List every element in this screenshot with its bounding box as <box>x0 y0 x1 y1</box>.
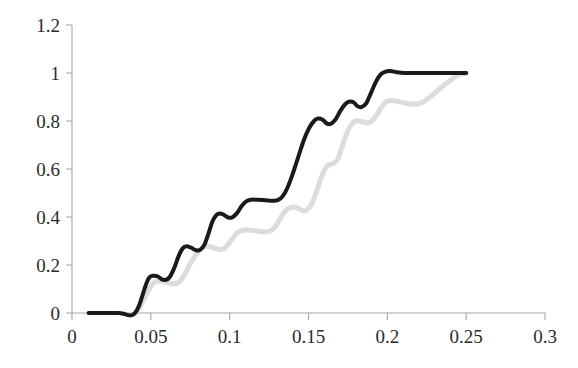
chart-series-layer <box>89 71 467 315</box>
y-tick-label: 0.2 <box>36 255 60 276</box>
y-tick-label: 0 <box>51 303 61 324</box>
x-tick-label: 0 <box>67 326 77 347</box>
x-axis-tick-labels: 00.050.10.150.20.250.3 <box>67 326 557 347</box>
chart-plot-svg: 00.20.40.60.811.2 00.050.10.150.20.250.3 <box>0 0 578 368</box>
y-axis-tick-marks <box>66 25 72 313</box>
y-tick-label: 1.2 <box>36 15 60 36</box>
x-tick-label: 0.25 <box>450 326 483 347</box>
y-tick-label: 0.4 <box>36 207 60 228</box>
y-tick-label: 0.6 <box>36 159 60 180</box>
x-tick-label: 0.2 <box>375 326 399 347</box>
x-tick-label: 0.05 <box>134 326 167 347</box>
y-tick-label: 1 <box>51 63 61 84</box>
chart-container: 00.20.40.60.811.2 00.050.10.150.20.250.3 <box>0 0 578 368</box>
series-black-curve <box>89 71 467 315</box>
x-tick-label: 0.1 <box>218 326 242 347</box>
x-tick-label: 0.15 <box>292 326 325 347</box>
x-tick-label: 0.3 <box>533 326 557 347</box>
x-axis-tick-marks <box>72 313 545 320</box>
y-axis-tick-labels: 00.20.40.60.811.2 <box>36 15 60 324</box>
x-axis <box>72 313 545 320</box>
y-tick-label: 0.8 <box>36 111 60 132</box>
series-gray-curve <box>133 73 466 314</box>
y-axis <box>66 25 72 313</box>
